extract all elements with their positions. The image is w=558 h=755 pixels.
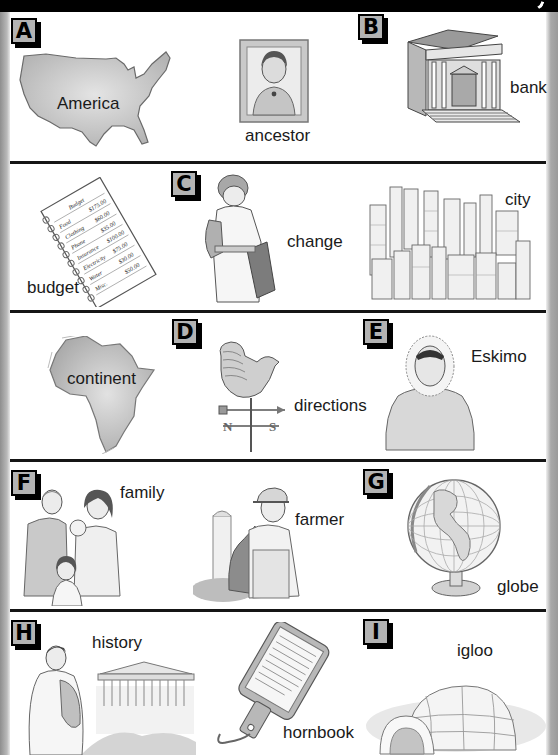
row-separator (10, 609, 546, 612)
word-label-city: city (505, 190, 531, 210)
word-label-change: change (287, 232, 343, 252)
title-curl-glyph (532, 0, 545, 11)
word-label-igloo: igloo (457, 641, 493, 661)
word-label-farmer: farmer (295, 510, 344, 530)
letter-badge-a: A (11, 18, 37, 44)
word-label-directions: directions (294, 396, 367, 416)
word-label-america: America (57, 94, 119, 114)
word-label-eskimo: Eskimo (471, 347, 527, 367)
weather-vane-icon: N S (213, 340, 293, 452)
row-separator (10, 161, 546, 164)
page-edge-left (0, 12, 10, 755)
bank-building-icon (402, 24, 534, 124)
africa-map-icon (46, 336, 158, 454)
compass-n: N (223, 419, 233, 434)
letter-badge-c: C (171, 171, 197, 197)
word-label-budget: budget (27, 278, 79, 298)
ancient-greece-icon (22, 644, 196, 755)
letter-badge-i: I (363, 619, 389, 645)
word-label-bank: bank (510, 78, 547, 98)
row-separator (10, 459, 546, 462)
word-label-ancestor: ancestor (245, 126, 310, 146)
eskimo-parka-icon (380, 334, 480, 454)
globe-icon (404, 474, 508, 598)
igloo-icon (366, 676, 546, 755)
compass-s: S (269, 419, 276, 434)
boy-changing-clothes-icon (203, 172, 283, 304)
letter-badge-h: H (11, 620, 37, 646)
row-separator (10, 310, 546, 313)
letter-badge-g: G (363, 469, 389, 495)
word-label-history: history (92, 633, 142, 653)
top-title-bar (0, 0, 558, 12)
word-label-family: family (120, 483, 164, 503)
word-label-continent: continent (67, 369, 136, 389)
family-group-icon (22, 484, 126, 606)
page-edge-right (546, 12, 558, 755)
word-label-globe: globe (497, 577, 539, 597)
framed-portrait-icon (239, 39, 309, 123)
letter-badge-d: D (172, 319, 198, 345)
letter-badge-b: B (358, 14, 384, 40)
farmer-silo-icon (193, 486, 323, 604)
word-label-hornbook: hornbook (283, 723, 354, 743)
